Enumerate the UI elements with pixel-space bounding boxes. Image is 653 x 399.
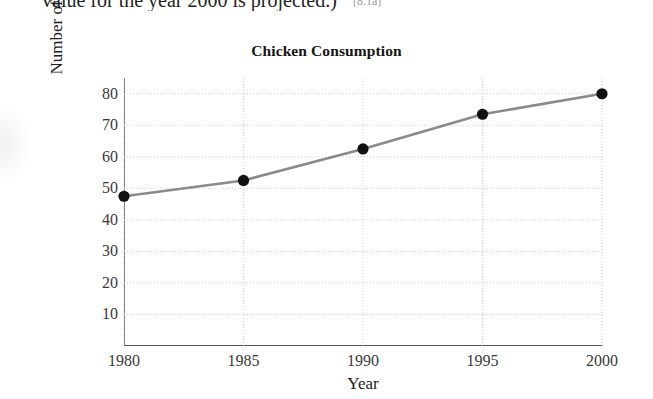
data-point-marker [118, 191, 129, 202]
y-tick-label: 70 [78, 116, 118, 134]
y-tick-label: 60 [78, 148, 118, 166]
y-tick-label: 10 [78, 305, 118, 323]
plot-area [124, 78, 602, 346]
y-axis-title-text: Number of pounds per person [44, 0, 70, 104]
x-tick-label: 2000 [562, 352, 642, 370]
x-tick-label: 1985 [204, 352, 284, 370]
data-point-marker [596, 88, 607, 99]
y-tick-label: 80 [78, 85, 118, 103]
gridlines [124, 78, 602, 346]
y-tick-label: 40 [78, 211, 118, 229]
y-axis-tick-labels: 8070605040302010 [74, 0, 118, 399]
x-tick-label: 1995 [443, 352, 523, 370]
x-axis-title: Year [124, 374, 602, 394]
x-tick-label: 1980 [84, 352, 164, 370]
data-point-marker [238, 175, 249, 186]
scan-artifact-smudge [0, 105, 30, 183]
chart-figure: value for the year 2000 is projected.)[8… [0, 0, 653, 399]
y-tick-label: 20 [78, 274, 118, 292]
y-axis-title: Number of pounds per person [44, 0, 70, 104]
plot-svg [114, 68, 612, 356]
x-tick-label: 1990 [323, 352, 403, 370]
data-point-marker [477, 109, 488, 120]
data-point-marker [357, 143, 368, 154]
page-reference-tag: [8.1a] [353, 0, 381, 8]
y-tick-label: 50 [78, 179, 118, 197]
y-tick-label: 30 [78, 242, 118, 260]
